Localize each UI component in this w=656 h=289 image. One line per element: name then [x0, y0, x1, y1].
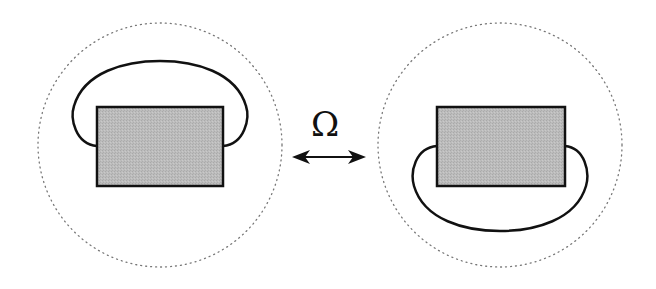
left-rectangle: [97, 107, 223, 186]
right-panel: [378, 23, 622, 267]
diagram-canvas: [0, 0, 656, 289]
double-arrow: [292, 150, 366, 164]
omega-symbol: Ω: [305, 104, 345, 144]
right-rectangle: [437, 107, 565, 186]
left-panel: [38, 23, 282, 267]
